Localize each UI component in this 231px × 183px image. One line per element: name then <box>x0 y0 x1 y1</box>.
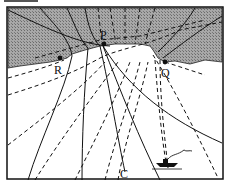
label-Q: Q <box>161 66 170 80</box>
point-Q-marker <box>163 60 168 65</box>
clipped-caption <box>4 0 38 2</box>
label-C: C <box>120 167 128 181</box>
wave-refraction-diagram: P R Q C <box>0 0 231 183</box>
point-R-marker <box>58 56 63 61</box>
label-P: P <box>100 28 107 42</box>
point-P-marker <box>102 42 107 47</box>
label-R: R <box>54 63 62 77</box>
